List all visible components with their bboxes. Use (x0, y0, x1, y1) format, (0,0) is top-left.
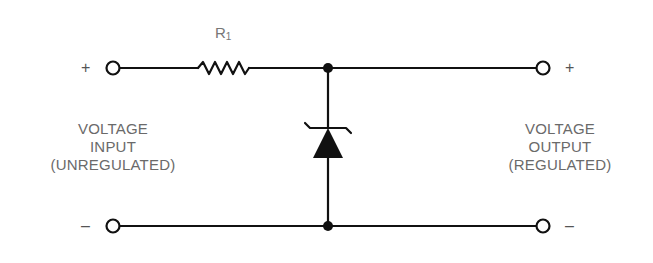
input-positive-sign: + (81, 60, 90, 76)
resistor-label-letter: R (215, 24, 226, 41)
junction-dot-top (323, 63, 333, 73)
output-label-line-3: (REGULATED) (490, 156, 630, 174)
input-positive-terminal (107, 62, 120, 75)
input-label-line-1: VOLTAGE (38, 120, 188, 138)
output-negative-sign: – (565, 218, 574, 234)
resistor-label: R1 (215, 24, 231, 42)
output-positive-terminal (537, 62, 550, 75)
input-negative-sign: – (81, 218, 90, 234)
output-negative-terminal (537, 220, 550, 233)
input-label-line-3: (UNREGULATED) (38, 156, 188, 174)
input-label-line-2: INPUT (38, 138, 188, 156)
output-label-line-1: VOLTAGE (490, 120, 630, 138)
output-positive-sign: + (565, 60, 574, 76)
junction-dot-bottom (323, 221, 333, 231)
output-label-line-2: OUTPUT (490, 138, 630, 156)
output-label: VOLTAGE OUTPUT (REGULATED) (490, 120, 630, 174)
input-label: VOLTAGE INPUT (UNREGULATED) (38, 120, 188, 174)
input-negative-terminal (107, 220, 120, 233)
resistor-r1 (198, 62, 249, 74)
resistor-label-subscript: 1 (226, 31, 232, 42)
zener-diode-triangle (313, 128, 343, 158)
